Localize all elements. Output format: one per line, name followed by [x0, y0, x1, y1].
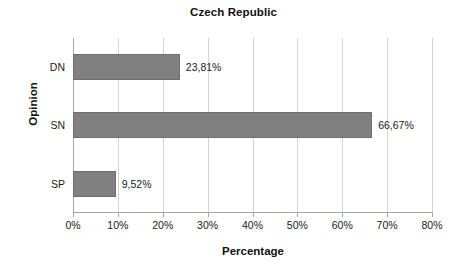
- x-tick-label: 80%: [410, 219, 454, 231]
- bar-dn[interactable]: [73, 54, 180, 80]
- bar-chart: Czech Republic Opinion Percentage 23,81%…: [0, 0, 467, 277]
- x-tick-label: 50%: [275, 219, 319, 231]
- x-tick-mark-70: [387, 213, 388, 217]
- x-tick-mark-50: [297, 213, 298, 217]
- x-tick-label: 30%: [186, 219, 230, 231]
- x-tick-mark-80: [432, 213, 433, 217]
- x-tick-label: 10%: [96, 219, 140, 231]
- gridline-80: [432, 38, 433, 213]
- bar-row: 66,67%: [73, 96, 432, 154]
- x-tick-label: 0%: [51, 219, 95, 231]
- bar-row: 9,52%: [73, 155, 432, 213]
- bar-value-label: 66,67%: [372, 112, 414, 138]
- x-tick-label: 70%: [365, 219, 409, 231]
- x-tick-label: 60%: [320, 219, 364, 231]
- y-category-label-sp: SP: [18, 178, 65, 190]
- bar-row: 23,81%: [73, 38, 432, 96]
- chart-title: Czech Republic: [0, 6, 467, 18]
- x-tick-mark-0: [73, 213, 74, 217]
- x-tick-mark-60: [342, 213, 343, 217]
- x-tick-mark-30: [208, 213, 209, 217]
- plot-area: 23,81%66,67%9,52%: [73, 38, 432, 213]
- x-tick-label: 20%: [141, 219, 185, 231]
- x-tick-mark-10: [118, 213, 119, 217]
- bar-sp[interactable]: [73, 171, 116, 197]
- y-category-label-sn: SN: [18, 119, 65, 131]
- x-tick-mark-20: [163, 213, 164, 217]
- bar-sn[interactable]: [73, 112, 372, 138]
- x-axis-title: Percentage: [73, 245, 433, 257]
- bar-value-label: 23,81%: [180, 54, 222, 80]
- y-category-label-dn: DN: [18, 61, 65, 73]
- x-tick-mark-40: [253, 213, 254, 217]
- bar-value-label: 9,52%: [116, 171, 152, 197]
- x-tick-label: 40%: [231, 219, 275, 231]
